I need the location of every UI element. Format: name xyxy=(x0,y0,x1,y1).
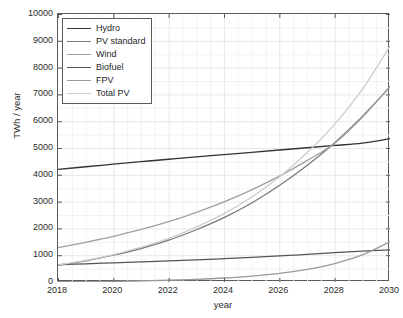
legend-line-icon xyxy=(66,23,92,34)
y-tick-label: 9000 xyxy=(3,35,53,44)
legend-item[interactable]: Hydro xyxy=(66,22,146,35)
x-tick-label: 2018 xyxy=(35,286,79,295)
legend-item-label: FPV xyxy=(92,76,114,85)
legend-line-icon xyxy=(66,36,92,47)
y-axis-label: TWh / year xyxy=(11,66,22,166)
x-axis-tick-labels: 2018202020222024202620282030 xyxy=(0,286,403,300)
legend-item[interactable]: PV standard xyxy=(66,35,146,48)
legend-item[interactable]: FPV xyxy=(66,74,146,87)
y-tick-label: 1000 xyxy=(3,250,53,259)
legend-line-icon xyxy=(66,88,92,99)
x-tick-label: 2028 xyxy=(312,286,356,295)
legend-item-label: Total PV xyxy=(92,89,130,98)
y-tick-label: 2000 xyxy=(3,223,53,232)
legend-item[interactable]: Total PV xyxy=(66,87,146,100)
y-tick-label: 0 xyxy=(3,277,53,286)
x-tick-label: 2020 xyxy=(90,286,134,295)
legend-item[interactable]: Wind xyxy=(66,48,146,61)
legend-item-label: Biofuel xyxy=(92,63,124,72)
y-tick-label: 3000 xyxy=(3,196,53,205)
y-tick-label: 4000 xyxy=(3,169,53,178)
chart-figure: 0100020003000400050006000700080009000100… xyxy=(0,0,403,318)
x-tick-label: 2026 xyxy=(256,286,300,295)
legend-line-icon xyxy=(66,49,92,60)
x-tick-label: 2030 xyxy=(367,286,403,295)
y-tick-label: 10000 xyxy=(3,9,53,18)
legend: HydroPV standardWindBiofuelFPVTotal PV xyxy=(62,18,152,104)
y-axis-tick-labels: 0100020003000400050006000700080009000100… xyxy=(0,0,53,318)
x-axis-label: year xyxy=(57,299,389,310)
legend-item-label: Wind xyxy=(92,50,117,59)
x-tick-label: 2024 xyxy=(201,286,245,295)
legend-item-label: PV standard xyxy=(92,37,146,46)
legend-item[interactable]: Biofuel xyxy=(66,61,146,74)
legend-line-icon xyxy=(66,75,92,86)
legend-line-icon xyxy=(66,62,92,73)
legend-item-label: Hydro xyxy=(92,24,120,33)
x-tick-label: 2022 xyxy=(146,286,190,295)
